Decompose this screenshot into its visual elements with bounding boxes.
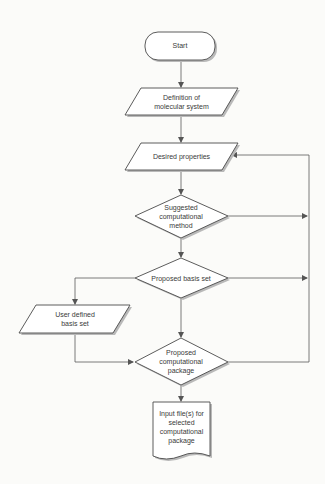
input-files-label-line1: Input file(s) for <box>151 409 212 418</box>
definition-label-line1: Definition of <box>130 93 233 102</box>
definition-label: Definition of molecular system <box>130 93 233 111</box>
edge-basis-userbasis <box>75 278 135 304</box>
input-files-label: Input file(s) for selected computational… <box>151 409 212 445</box>
package-label-line2: computational <box>140 357 222 366</box>
input-files-label-line4: package <box>151 436 212 445</box>
definition-label-line2: molecular system <box>130 102 233 111</box>
input-files-label-line3: computational <box>151 427 212 436</box>
start-label: Start <box>145 41 215 50</box>
package-label-line3: package <box>140 366 222 375</box>
input-files-label-line2: selected <box>151 418 212 427</box>
proposed-package-label: Proposed computational package <box>140 348 222 375</box>
suggested-label-line1: Suggested <box>140 203 222 212</box>
proposed-basis-label: Proposed basis set <box>140 274 222 283</box>
package-label-line1: Proposed <box>140 348 222 357</box>
suggested-label-line2: computational <box>140 212 222 221</box>
user-basis-label: User defined basis set <box>25 310 125 328</box>
edge-package-loop <box>228 155 309 362</box>
user-basis-label-line1: User defined <box>25 310 125 319</box>
user-basis-label-line2: basis set <box>25 319 125 328</box>
edge-userbasis-package <box>75 333 133 362</box>
desired-properties-label: Desired properties <box>130 152 233 161</box>
suggested-method-label: Suggested computational method <box>140 203 222 230</box>
suggested-label-line3: method <box>140 221 222 230</box>
